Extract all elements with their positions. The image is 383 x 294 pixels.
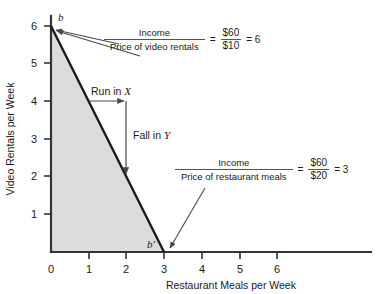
formula-restaurant-meals: Income Price of restaurant meals = $60 $… — [175, 157, 348, 182]
formula-video-numerator: Income — [133, 27, 176, 39]
formula-video-value-denominator: $10 — [221, 40, 242, 52]
point-label-b-prime: b' — [147, 238, 156, 250]
formula-meals-result: = 3 — [334, 164, 348, 176]
formula-meals-value-fraction: $60 $20 — [308, 157, 329, 182]
x-tick-label-4: 4 — [199, 263, 205, 275]
y-tick-label-1: 1 — [31, 208, 37, 220]
y-tick-label-2: 2 — [31, 170, 37, 182]
formula-meals-numerator: Income — [212, 157, 255, 169]
y-tick-label-6: 6 — [31, 20, 37, 32]
formula-meals-fraction: Income Price of restaurant meals — [175, 157, 293, 182]
formula-video-denominator: Price of video rentals — [104, 40, 205, 52]
formula-video-rentals: Income Price of video rentals = $60 $10 … — [104, 27, 260, 52]
x-tick-label-1: 1 — [86, 263, 92, 275]
y-tick-label-5: 5 — [31, 57, 37, 69]
formula-video-value-numerator: $60 — [221, 27, 242, 39]
formula-video-equals: = — [210, 34, 216, 46]
x-tick-label-5: 5 — [237, 263, 243, 275]
formula-meals-value-numerator: $60 — [308, 157, 329, 169]
x-tick-label-2: 2 — [123, 263, 129, 275]
x-tick-label-3: 3 — [161, 263, 167, 275]
y-tick-label-4: 4 — [31, 95, 37, 107]
formula-meals-equals: = — [298, 164, 304, 176]
formula-video-fraction: Income Price of video rentals — [104, 27, 205, 52]
formula-meals-value-denominator: $20 — [308, 170, 329, 182]
formula-video-result: = 6 — [246, 34, 260, 46]
budget-constraint-figure: 1 2 3 4 5 6 0 1 2 3 4 5 6 Restaurant Mea… — [0, 0, 383, 294]
x-tick-label-6: 6 — [274, 263, 280, 275]
formula-meals-denominator: Price of restaurant meals — [175, 170, 293, 182]
callout-leader-b-prime — [170, 188, 205, 248]
x-axis-title: Restaurant Meals per Week — [166, 279, 297, 291]
run-in-x-label: Run in X — [91, 85, 132, 97]
formula-video-value-fraction: $60 $10 — [221, 27, 242, 52]
point-label-b: b — [58, 11, 64, 23]
x-tick-label-0: 0 — [48, 263, 54, 275]
y-axis-title: Video Rentals per Week — [4, 82, 16, 196]
y-tick-label-3: 3 — [31, 133, 37, 145]
fall-in-y-label: Fall in Y — [133, 129, 172, 141]
